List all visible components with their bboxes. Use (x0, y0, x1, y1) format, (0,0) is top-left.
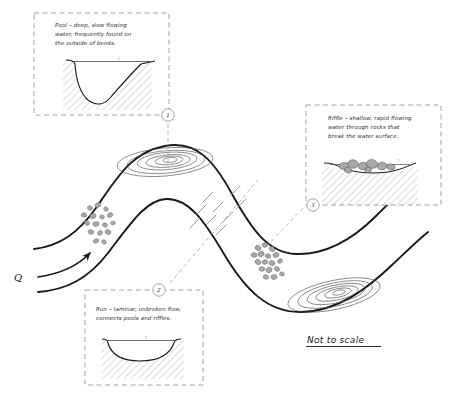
pool-water-level-icon: ▽ (118, 57, 121, 61)
callout-pool-line-1: Pool – deep, slow flowing (55, 22, 127, 29)
run-water-level-icon: ▽ (145, 336, 148, 340)
callout-run-marker-number: 2 (157, 287, 161, 293)
riffle-rock-cluster (251, 242, 285, 280)
run-laminar-flow-lines (190, 186, 246, 235)
callout-riffle-marker-number: 3 (311, 202, 315, 208)
callout-riffle-line-3: break the water surface. (328, 133, 399, 139)
callout-riffle-line-1: Riffle – shallow, rapid flowing (328, 115, 412, 122)
scale-note-group: Not to scale (306, 335, 381, 347)
callout-pool-line-3: the outside of bends. (55, 40, 116, 46)
callout-run-line-1: Run – laminar, unbroken flow, (96, 306, 181, 312)
callout-pool-marker-number: 1 (166, 112, 169, 118)
diagram-canvas: Q Pool – deep, slow flowing water, frequ… (0, 0, 458, 407)
river-channel-diagram: Q Pool – deep, slow flowing water, frequ… (0, 0, 458, 407)
callout-pool-line-2: water, frequently found on (55, 31, 132, 38)
callout-run[interactable]: Run – laminar, unbroken flow, connects p… (85, 284, 203, 385)
riffle-water-level-icon: ▽ (397, 159, 400, 163)
point-bar-gravel (81, 202, 116, 245)
leader-run (170, 180, 258, 283)
callout-riffle-line-2: water through rocks that (328, 124, 400, 131)
scale-note: Not to scale (307, 335, 364, 345)
discharge-label: Q (14, 272, 22, 283)
callout-riffle[interactable]: Riffle – shallow, rapid flowing water th… (306, 105, 441, 211)
callout-pool[interactable]: Pool – deep, slow flowing water, frequen… (34, 13, 174, 121)
callout-run-line-2: connects pools and riffles. (96, 315, 172, 322)
discharge-arrow (38, 253, 90, 277)
leader-riffle (268, 208, 303, 245)
